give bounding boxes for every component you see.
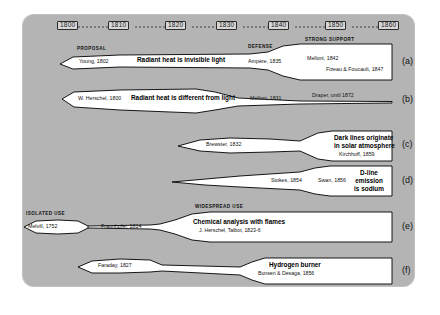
axis-tick-1820: 1820 [165,21,186,30]
event-kirchhoff-1859: Kirchhoff, 1859 [339,152,375,158]
figure-canvas: 1800 1810 1820 1830 1840 1850 1860 PROPO… [0,0,440,315]
event-w-herschel-1800: W. Herschel, 1800 [78,96,121,102]
caption-proposal: PROPOSAL [77,47,106,52]
event-jherschel-talbot: J. Herschel, Talbot, 1823-6 [199,228,261,233]
statement-b: Radiant heat is different from light [131,95,235,102]
statement-c-line2: in solar atmosphere [334,143,395,150]
axis-tick-1860: 1860 [378,21,399,30]
caption-defense: DEFENSE [248,45,273,50]
event-ampere-1835: Ampère, 1835 [248,59,281,65]
statement-d-line2: emission [348,178,390,185]
row-label-a: (a) [402,57,413,66]
statement-d-line1: D-line [348,170,390,177]
event-brewster-1832: Brewster, 1832 [206,142,241,148]
statement-f: Hydrogen burner [269,262,321,269]
statement-d-line3: is sodium [348,186,390,193]
event-stokes-1854: Stokes, 1854 [271,178,302,184]
axis-tick-1830: 1830 [216,21,237,30]
event-bunsen-desaga-1856: Bunsen & Desaga, 1856 [258,271,314,276]
axis-tick-1850: 1850 [325,21,346,30]
statement-c-line1: Dark lines originate [334,135,393,142]
row-label-b: (b) [402,95,413,104]
caption-widespread-use: WIDESPREAD USE [195,205,243,210]
event-fraunhofer-1814: Fraunhofer, 1814 [101,224,141,230]
event-melloni-1842: Melloni, 1842 [307,56,339,62]
row-label-e: (e) [402,222,413,231]
row-label-c: (c) [402,140,413,149]
event-faraday-1827: Faraday, 1827 [98,263,132,269]
row-label-f: (f) [402,266,411,275]
event-melvill-1752: Melvill, 1752 [28,224,57,230]
event-young-1802: Young, 1802 [79,59,109,65]
statement-a: Radiant heat is invisible light [137,57,225,64]
event-fizeau-foucault-1847: Fizeau & Foucault, 1847 [326,67,383,73]
axis-tick-1840: 1840 [268,21,289,30]
axis-tick-1810: 1810 [108,21,129,30]
axis-tick-1800: 1800 [57,21,78,30]
caption-isolated-use: ISOLATED USE [26,212,65,217]
event-swan-1856: Swan, 1856 [318,178,346,184]
row-label-d: (d) [402,176,413,185]
event-melloni-1831: Melloni, 1831 [250,96,282,102]
band-a [60,44,392,80]
statement-e: Chemical analysis with flames [193,219,285,226]
event-draper-1872: Draper, until 1872 [312,93,354,99]
caption-strong-support: STRONG SUPPORT [305,38,354,43]
